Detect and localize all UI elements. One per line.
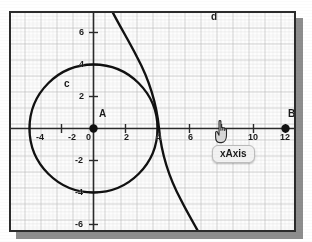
x-tick-label-12: 12 (280, 133, 290, 142)
graphing-app: -4 -2 0 2 4 6 10 12 6 4 2 -2 -4 -6 A B c… (0, 0, 312, 242)
major-gridlines (11, 13, 294, 230)
curve-d-label[interactable]: d (211, 12, 217, 22)
circle-c-label[interactable]: c (64, 79, 70, 89)
y-tick-label--6: -6 (75, 220, 83, 229)
plot-frame[interactable]: -4 -2 0 2 4 6 10 12 6 4 2 -2 -4 -6 A B c… (9, 11, 296, 232)
y-tick-label--2: -2 (75, 156, 83, 165)
y-tick-label-4: 4 (79, 60, 84, 69)
y-tick-label--4: -4 (75, 188, 83, 197)
x-tick-label-0: 0 (86, 133, 91, 142)
plot-canvas[interactable] (11, 13, 294, 230)
point-b-label[interactable]: B (288, 109, 295, 119)
y-tick-label-6: 6 (79, 28, 84, 37)
axis-tooltip: xAxis (212, 145, 255, 163)
x-tick-label-6: 6 (188, 133, 193, 142)
x-tick-label--2: -2 (68, 133, 76, 142)
y-tick-label-2: 2 (79, 92, 84, 101)
pointing-hand-cursor (212, 119, 234, 145)
x-tick-label-2: 2 (124, 133, 129, 142)
x-tick-label-4: 4 (156, 133, 161, 142)
x-tick-label-10: 10 (248, 133, 258, 142)
point-a-label[interactable]: A (99, 109, 106, 119)
x-tick-label--4: -4 (36, 133, 44, 142)
